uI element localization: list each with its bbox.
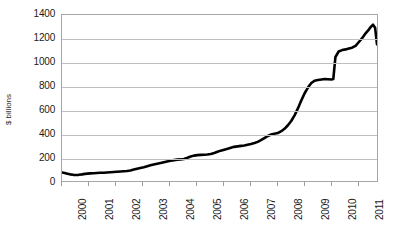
gridline <box>62 111 377 112</box>
chart-container: $ billions 0200400600800100012001400 200… <box>0 0 397 230</box>
y-axis-tick-labels: 0200400600800100012001400 <box>18 0 58 230</box>
gridline <box>62 63 377 64</box>
y-axis-tick-label: 1200 <box>17 33 55 43</box>
y-axis-title: $ billions <box>2 64 16 154</box>
gridline <box>62 39 377 40</box>
y-axis-title-label: $ billions <box>5 93 14 124</box>
y-axis-tick-label: 0 <box>17 177 55 187</box>
gridline <box>62 87 377 88</box>
y-axis-tick-label: 600 <box>17 105 55 115</box>
gridline <box>62 135 377 136</box>
data-series-line <box>62 25 377 175</box>
y-axis-tick-label: 200 <box>17 153 55 163</box>
y-axis-tick-label: 800 <box>17 81 55 91</box>
x-axis-tick-mark <box>61 182 62 186</box>
x-axis-tick-label: 2011 <box>374 186 397 220</box>
y-axis-tick-label: 1000 <box>17 57 55 67</box>
y-axis-tick-label: 1400 <box>17 9 55 19</box>
plot-area <box>61 14 378 182</box>
y-axis-tick-label: 400 <box>17 129 55 139</box>
x-axis-tick-labels: 2000200120022003200420052006200720082009… <box>61 188 378 222</box>
gridline <box>62 159 377 160</box>
